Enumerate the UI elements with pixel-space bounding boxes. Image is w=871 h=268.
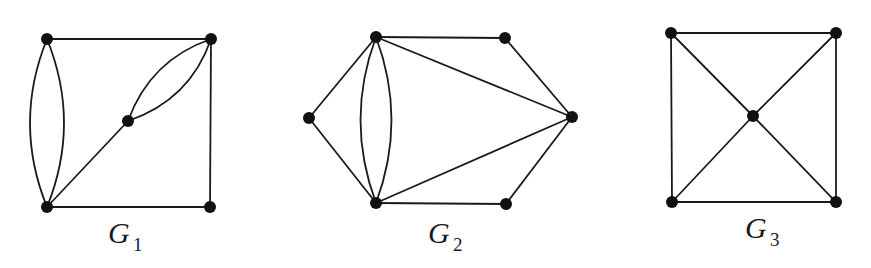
edge-g2-left-top <box>309 37 376 118</box>
edge-g1-diag-arc-upper <box>128 39 211 121</box>
graph-label-g2: G <box>428 216 450 249</box>
node-g3-bottom-right <box>830 196 842 208</box>
node-g1-center <box>122 115 134 127</box>
node-g2-right <box>566 111 578 123</box>
node-g3-top-right <box>830 27 842 39</box>
graph-label-g3-subscript: 3 <box>770 229 780 250</box>
edge-g2-bottom-right <box>506 117 572 204</box>
node-g3-top-left <box>665 27 677 39</box>
node-g1-top-left <box>41 33 53 45</box>
edge-g2-top-to-right <box>376 37 572 117</box>
node-g2-top-left <box>370 31 382 43</box>
edge-g3-left <box>671 33 672 202</box>
node-g2-left <box>303 112 315 124</box>
edge-g3-diag-bl <box>672 116 753 202</box>
graph-figure: G 1 G 2 G 3 <box>0 0 871 268</box>
graph-label-g1: G <box>108 216 130 249</box>
edge-g1-left-arc-inner <box>47 39 64 207</box>
edge-g2-left-bottom <box>309 118 376 203</box>
node-g2-bottom-right <box>500 198 512 210</box>
graph-g2: G 2 <box>303 31 578 255</box>
node-g1-bottom-left <box>41 201 53 213</box>
edge-g1-diag-arc-lower <box>128 39 211 121</box>
graph-label-g3: G <box>745 211 767 244</box>
edge-g3-diag-br <box>753 116 836 202</box>
edge-g1-right <box>210 39 211 207</box>
edge-g1-left-arc-outer <box>30 39 47 207</box>
graph-label-g1-subscript: 1 <box>133 234 143 255</box>
graph-label-g2-subscript: 2 <box>453 234 463 255</box>
edge-g2-bottom <box>376 203 506 204</box>
node-g3-center <box>747 110 759 122</box>
node-g2-bottom-left <box>370 197 382 209</box>
edge-g2-top-right <box>505 38 572 117</box>
node-g3-bottom-left <box>666 196 678 208</box>
edge-g2-arc-right <box>376 37 392 203</box>
edge-g2-top <box>376 37 505 38</box>
edge-g3-diag-tl <box>671 33 753 116</box>
edge-g2-bottom-to-right <box>376 117 572 203</box>
node-g1-top-right <box>205 33 217 45</box>
edge-g2-arc-left <box>361 37 377 203</box>
graph-g3: G 3 <box>665 27 842 250</box>
edge-g3-diag-tr <box>753 33 836 116</box>
graph-g1: G 1 <box>30 33 217 255</box>
node-g1-bottom-right <box>204 201 216 213</box>
node-g2-top-right <box>499 32 511 44</box>
